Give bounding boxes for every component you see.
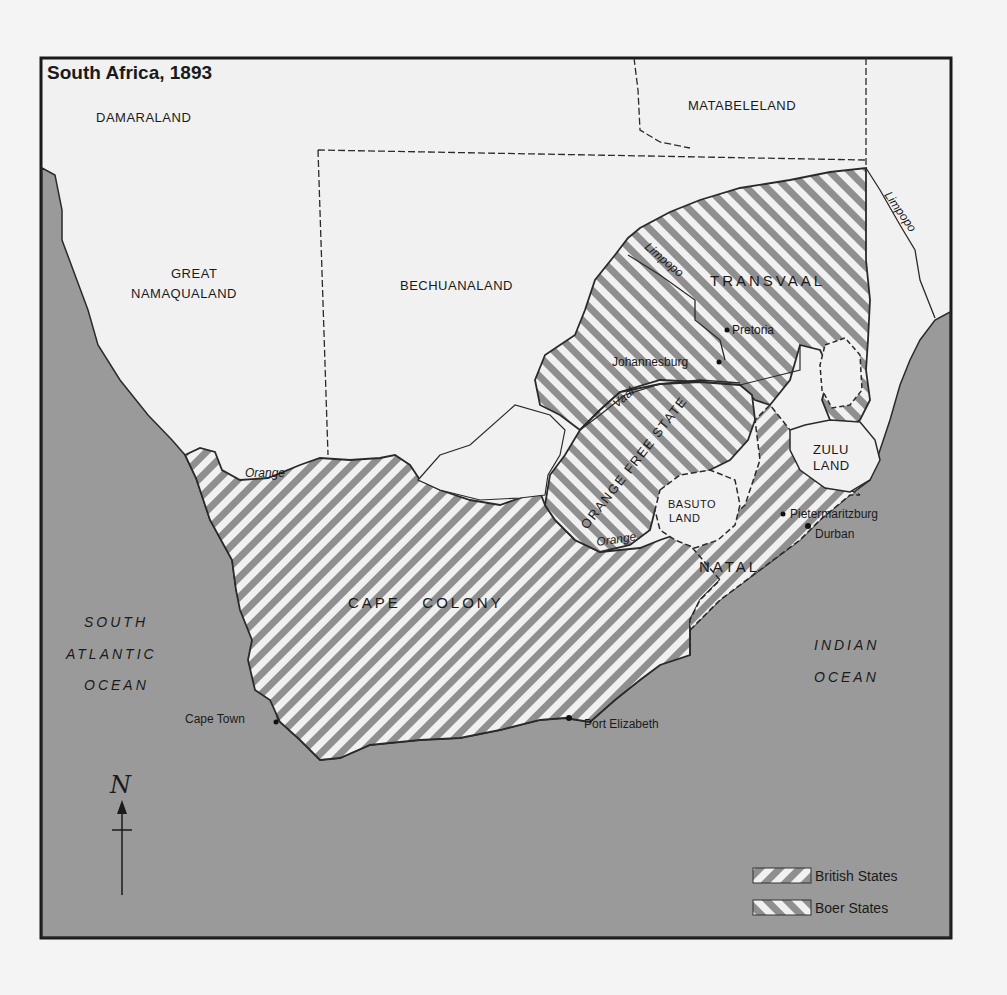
label-south-atlantic-1: SOUTH: [84, 614, 148, 630]
label-south-atlantic-2: ATLANTIC: [65, 646, 157, 662]
label-matabeleland: MATABELELAND: [688, 98, 796, 113]
label-basuto-land: LAND: [669, 512, 700, 524]
svg-text:Pietermaritzburg: Pietermaritzburg: [790, 507, 878, 521]
label-cape-colony: CAPE COLONY: [348, 594, 504, 611]
legend-item-boer: Boer States: [753, 900, 888, 916]
city-pietermaritzburg: Pietermaritzburg: [781, 507, 879, 521]
label-bechuanaland: BECHUANALAND: [400, 278, 513, 293]
svg-text:N: N: [109, 771, 132, 799]
legend-item-british: British States: [753, 868, 897, 884]
svg-text:Boer States: Boer States: [815, 900, 888, 916]
label-great: GREAT: [171, 266, 217, 281]
label-damaraland: DAMARALAND: [96, 110, 191, 125]
label-orange-west: Orange: [245, 466, 285, 480]
label-indian-1: INDIAN: [814, 637, 879, 653]
svg-text:Cape Town: Cape Town: [185, 712, 245, 726]
label-south-atlantic-3: OCEAN: [84, 677, 149, 693]
label-zulu-land: LAND: [813, 458, 850, 473]
svg-text:Pretoria: Pretoria: [732, 323, 774, 337]
label-transvaal: TRANSVAAL: [710, 272, 825, 289]
svg-text:Durban: Durban: [815, 527, 854, 541]
svg-text:Port Elizabeth: Port Elizabeth: [584, 717, 659, 731]
svg-text:Johannesburg: Johannesburg: [612, 355, 688, 369]
label-indian-2: OCEAN: [814, 669, 879, 685]
label-namaqualand: NAMAQUALAND: [131, 286, 237, 301]
svg-text:British States: British States: [815, 868, 897, 884]
label-natal: NATAL: [699, 558, 760, 575]
label-zulu: ZULU: [813, 442, 849, 457]
city-pretoria: Pretoria: [725, 323, 775, 337]
south-africa-map: South Africa, 1893 DAMARALAND MATABELELA…: [0, 0, 1007, 995]
map-title: South Africa, 1893: [47, 62, 212, 83]
label-basuto: BASUTO: [668, 498, 716, 510]
